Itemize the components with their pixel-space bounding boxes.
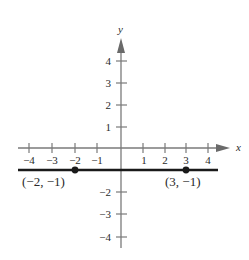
x-axis-arrow-icon	[216, 144, 230, 152]
x-tick-label: −2	[69, 154, 81, 166]
y-tick-label: 4	[106, 55, 112, 67]
x-axis-label: x	[235, 141, 241, 153]
x-tick-label: 3	[183, 154, 189, 166]
y-axis-label: y	[117, 23, 123, 35]
y-tick-label: 3	[106, 77, 112, 89]
point-marker-a	[72, 167, 79, 174]
y-tick-label: −2	[99, 186, 111, 198]
y-tick-label: −4	[99, 231, 111, 243]
x-tick-label: −3	[46, 154, 58, 166]
point-label-a: (−2, −1)	[22, 174, 65, 189]
y-tick-label: 2	[106, 99, 112, 111]
y-axis: 4 3 2 1 −2 −3 −4 y	[99, 23, 127, 248]
x-tick-label: 4	[205, 154, 211, 166]
point-label-b: (3, −1)	[165, 174, 201, 189]
y-tick-label: 1	[106, 121, 112, 133]
x-tick-label: 1	[141, 154, 147, 166]
x-tick-label: −1	[91, 154, 103, 166]
x-tick-label: 2	[162, 154, 168, 166]
y-axis-arrow-icon	[117, 38, 125, 53]
coordinate-plane: −4 −3 −2 −1 1 2 3 4 x 4 3 2 1 −2 −3 −4 y…	[0, 0, 249, 260]
x-tick-label: −4	[23, 154, 35, 166]
x-axis: −4 −3 −2 −1 1 2 3 4 x	[18, 141, 241, 166]
point-marker-b	[183, 167, 190, 174]
y-tick-label: −3	[99, 208, 111, 220]
